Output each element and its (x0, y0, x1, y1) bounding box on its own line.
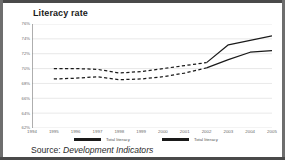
source-value: Development Indicators (63, 145, 153, 155)
right-border-rule (282, 0, 285, 160)
legend-swatch-icon (74, 138, 101, 141)
left-border-rule (0, 0, 3, 160)
chart-legend: Total literacy Total literacy (32, 135, 272, 144)
legend-swatch-icon (162, 138, 189, 141)
chart-title: Literacy rate (33, 8, 88, 18)
top-border-rule (0, 0, 285, 3)
series-line-dashed-0 (54, 63, 207, 73)
series-line-solid-0 (207, 36, 272, 63)
y-axis-tick-labels: 76%74%72%70%68%66%64%62% (10, 24, 30, 128)
legend-entry-total-literacy-1: Total literacy (74, 135, 130, 144)
y-tick-label: 70% (12, 66, 30, 71)
y-tick-label: 74% (12, 36, 30, 41)
y-tick-label: 66% (12, 96, 30, 101)
line-chart-svg (32, 24, 272, 128)
plot-area (32, 24, 272, 128)
y-tick-label: 76% (12, 21, 30, 26)
legend-label: Total literacy (194, 137, 218, 143)
legend-entry-total-literacy-2: Total literacy (162, 135, 218, 144)
source-label: Source: (31, 145, 61, 155)
legend-label: Total literacy (106, 137, 130, 143)
y-tick-label: 72% (12, 51, 30, 56)
y-tick-label: 68% (12, 81, 30, 86)
series-line-dashed-1 (54, 68, 207, 80)
source-note: Source: Development Indicators (31, 144, 153, 156)
figure-panel: Literacy rate 76%74%72%70%68%66%64%62% 1… (0, 0, 285, 160)
bottom-border-rule (0, 157, 285, 160)
series-line-solid-1 (207, 51, 272, 68)
y-tick-label: 64% (12, 111, 30, 116)
